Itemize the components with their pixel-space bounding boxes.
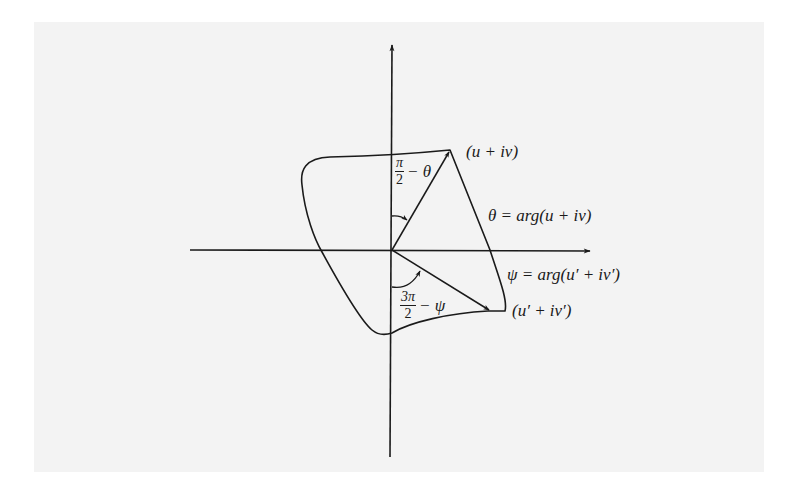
x-axis [190, 250, 590, 251]
page: (u + iv) θ = arg(u + iv) ψ = arg(u′ + iv… [0, 0, 797, 487]
angle-label-pi-over-2-minus-theta: π 2 − θ [395, 156, 431, 187]
angle-label-rest: − ψ [419, 297, 445, 314]
complex-plane-diagram [0, 0, 797, 487]
point-label-u-plus-iv: (u + iv) [466, 143, 518, 160]
angle-label-3pi-over-2-minus-psi: 3π 2 − ψ [400, 290, 445, 321]
y-axis [390, 45, 392, 457]
angle-arc-pi-over-2-minus-theta [392, 216, 407, 220]
psi-definition-label: ψ = arg(u′ + iv′) [507, 266, 620, 283]
fraction-denominator: 2 [405, 306, 412, 321]
fraction-numerator: π [395, 156, 404, 172]
angle-arc-3pi-over-2-minus-psi [392, 271, 420, 287]
fraction-denominator: 2 [396, 172, 403, 187]
theta-definition-label: θ = arg(u + iv) [488, 207, 591, 224]
point-label-u-prime-plus-iv-prime: (u′ + iv′) [512, 302, 572, 319]
fraction-numerator: 3π [400, 290, 416, 306]
angle-label-rest: − θ [407, 163, 431, 180]
